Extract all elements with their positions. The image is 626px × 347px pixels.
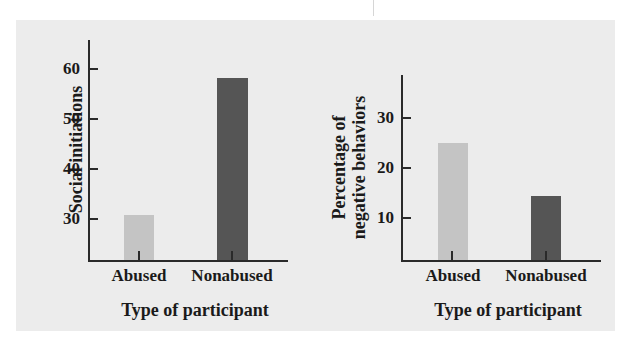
right-bar-abused bbox=[438, 143, 468, 260]
left-tick-50 bbox=[89, 118, 98, 120]
right-category-nonabused: Nonabused bbox=[491, 267, 601, 285]
left-tick-40 bbox=[89, 168, 98, 170]
right-tick-30 bbox=[402, 117, 411, 119]
right-tick-label-10: 10 bbox=[364, 209, 394, 227]
left-x-axis-title: Type of participant bbox=[115, 300, 275, 320]
left-tick-label-60: 60 bbox=[50, 60, 80, 78]
right-tick-label-30: 30 bbox=[364, 109, 394, 127]
left-tick-label-50: 50 bbox=[50, 110, 80, 128]
left-y-axis bbox=[88, 40, 90, 262]
right-cat-tick-nonabused bbox=[545, 251, 547, 260]
left-x-axis bbox=[88, 260, 288, 262]
left-tick-30 bbox=[89, 218, 98, 220]
left-cat-tick-nonabused bbox=[231, 251, 233, 260]
right-cat-tick-abused bbox=[451, 251, 453, 260]
scan-artifact-line bbox=[373, 0, 374, 16]
left-cat-tick-abused bbox=[138, 251, 140, 260]
left-bar-nonabused bbox=[217, 78, 248, 260]
right-tick-20 bbox=[402, 167, 411, 169]
right-tick-label-20: 20 bbox=[364, 159, 394, 177]
right-y-axis-title-line1: Percentage of bbox=[330, 93, 349, 243]
right-tick-10 bbox=[402, 217, 411, 219]
left-tick-label-40: 40 bbox=[50, 160, 80, 178]
right-x-axis-title: Type of participant bbox=[428, 300, 588, 320]
left-tick-label-30: 30 bbox=[50, 210, 80, 228]
left-category-nonabused: Nonabused bbox=[177, 267, 287, 285]
right-x-axis bbox=[401, 260, 601, 262]
left-tick-60 bbox=[89, 68, 98, 70]
